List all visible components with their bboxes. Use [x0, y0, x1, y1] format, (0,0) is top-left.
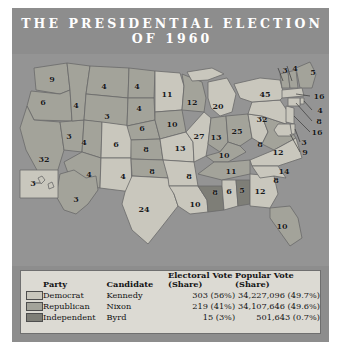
state-label-ga: 12 — [254, 187, 265, 195]
popular-vote-cell: 501,643 (0.7%) — [235, 312, 320, 323]
state-label-mi: 20 — [212, 102, 223, 110]
title-line-2: OF 1960 — [129, 31, 213, 46]
swatch-cell — [21, 290, 43, 301]
state-label-ma: 16 — [313, 92, 324, 100]
table-row: IndependentByrd15 (3%)501,643 (0.7%) — [21, 312, 320, 323]
state-label-ia: 10 — [166, 120, 177, 128]
table-row: RepublicanNixon219 (41%)34,107,646 (49.6… — [21, 301, 320, 312]
state-label-il: 27 — [193, 132, 204, 140]
state-label-tn: 11 — [225, 167, 236, 175]
state-label-vt: 3 — [282, 66, 288, 74]
state-oregon — [27, 90, 72, 121]
state-label-az: 4 — [86, 170, 92, 178]
leader-line-connecticut — [296, 103, 312, 121]
state-label-nj: 16 — [311, 128, 322, 136]
table-header-row: Party Candidate Electoral Vote (Share) P… — [21, 271, 320, 290]
state-label-nv: 3 — [66, 132, 72, 140]
candidate-header: Candidate — [107, 271, 168, 290]
state-label-sd: 4 — [136, 104, 142, 112]
state-label-ar: 8 — [186, 172, 192, 180]
state-label-mt: 4 — [101, 82, 107, 90]
state-rhodeisland — [300, 98, 304, 104]
results-table: Party Candidate Electoral Vote (Share) P… — [21, 271, 320, 323]
state-tennessee — [198, 160, 250, 180]
state-label-nh: 4 — [292, 64, 298, 72]
swatch-cell — [21, 301, 43, 312]
state-label-fl: 10 — [276, 222, 287, 230]
state-label-nd: 4 — [134, 82, 140, 90]
popular-vote-cell: 34,107,646 (49.6%) — [235, 301, 320, 312]
state-massachusetts — [282, 88, 304, 98]
state-label-wv: 8 — [257, 140, 263, 148]
state-label-in: 13 — [210, 133, 221, 141]
state-label-or: 6 — [40, 98, 46, 106]
state-label-nc: 14 — [278, 167, 289, 175]
popular-vote-header: Popular Vote (Share) — [235, 271, 320, 290]
swatch-header — [21, 271, 43, 290]
electoral-vote-cell: 303 (56%) — [168, 290, 235, 301]
state-label-wa: 9 — [49, 75, 55, 83]
state-label-mo: 13 — [174, 144, 185, 152]
candidate-cell: Nixon — [107, 301, 168, 312]
state-label-id: 4 — [73, 101, 79, 109]
state-label-wi: 12 — [186, 98, 197, 106]
state-connecticut — [288, 98, 300, 106]
results-table-body: DemocratKennedy303 (56%)34,227,096 (49.7… — [21, 290, 320, 324]
electoral-header-line2: (Share) — [168, 280, 235, 289]
state-montana — [86, 66, 129, 98]
us-map-svg: .st{stroke:#6a6a6a;stroke-width:.8;strok… — [12, 54, 329, 266]
state-label-al1: 6 — [226, 187, 232, 195]
state-label-ri: 4 — [317, 106, 323, 114]
state-label-nm: 4 — [120, 172, 126, 180]
state-label-ak: 3 — [73, 195, 79, 203]
state-label-sc: 8 — [273, 176, 279, 184]
electoral-vote-header: Electoral Vote (Share) — [168, 271, 235, 290]
state-label-mn: 11 — [161, 90, 172, 98]
electoral-vote-cell: 219 (41%) — [168, 301, 235, 312]
state-label-de: 3 — [301, 138, 307, 146]
popular-header-line2: (Share) — [235, 280, 320, 289]
party-cell: Republican — [43, 301, 107, 312]
state-label-co: 6 — [113, 140, 119, 148]
state-label-ct: 8 — [316, 117, 322, 125]
election-map-poster: THE PRESIDENTIAL ELECTION OF 1960 .st{st… — [12, 8, 329, 342]
state-label-ks: 8 — [143, 145, 149, 153]
state-newjersey — [286, 106, 294, 124]
title-line-1: THE PRESIDENTIAL ELECTION — [18, 16, 323, 31]
state-label-tx: 24 — [138, 205, 149, 213]
state-michigan-up — [187, 68, 224, 81]
party-cell: Democrat — [43, 290, 107, 301]
state-label-ny: 45 — [259, 90, 270, 98]
state-label-me: 5 — [310, 68, 316, 76]
party-header: Party — [43, 271, 107, 290]
state-label-ne: 6 — [139, 124, 145, 132]
table-row: DemocratKennedy303 (56%)34,227,096 (49.7… — [21, 290, 320, 301]
popular-vote-cell: 34,227,096 (49.7%) — [235, 290, 320, 301]
us-map: .st{stroke:#6a6a6a;stroke-width:.8;strok… — [12, 54, 329, 266]
color-swatch-independent — [26, 313, 43, 322]
electoral-vote-cell: 15 (3%) — [168, 312, 235, 323]
state-label-hi: 3 — [30, 179, 36, 187]
state-label-wy: 3 — [104, 112, 110, 120]
state-label-la: 10 — [189, 200, 200, 208]
state-arkansas — [163, 160, 198, 186]
color-swatch-republican — [26, 302, 43, 311]
state-label-oh: 25 — [231, 127, 242, 135]
state-label-ky: 10 — [218, 151, 229, 159]
state-label-ms: 8 — [212, 188, 218, 196]
state-label-ut: 4 — [81, 138, 87, 146]
results-legend: Party Candidate Electoral Vote (Share) P… — [20, 270, 321, 334]
swatch-cell — [21, 312, 43, 323]
state-label-va: 12 — [272, 148, 283, 156]
state-label-md: 9 — [302, 148, 308, 156]
state-label-pa: 32 — [256, 115, 267, 123]
state-label-ca: 32 — [38, 155, 49, 163]
state-label-ok: 8 — [149, 167, 155, 175]
candidate-cell: Kennedy — [107, 290, 168, 301]
poster-title: THE PRESIDENTIAL ELECTION OF 1960 — [12, 8, 329, 54]
state-maryland — [274, 124, 292, 136]
color-swatch-democrat — [26, 291, 43, 300]
party-cell: Independent — [43, 312, 107, 323]
leader-line-rhodeisland — [304, 101, 312, 110]
candidate-cell: Byrd — [107, 312, 168, 323]
